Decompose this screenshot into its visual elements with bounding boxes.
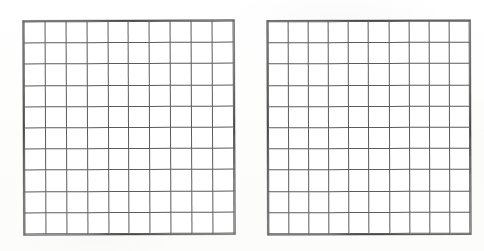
grid-cell[interactable] — [108, 64, 129, 85]
left-hundred-grid[interactable] — [23, 20, 236, 236]
grid-cell[interactable] — [25, 170, 46, 191]
grid-cell[interactable] — [212, 42, 233, 63]
grid-cell[interactable] — [349, 43, 369, 64]
grid-cell[interactable] — [268, 43, 288, 64]
grid-cell[interactable] — [429, 191, 449, 212]
grid-cell[interactable] — [429, 64, 449, 85]
grid-cell[interactable] — [45, 43, 66, 64]
grid-cell[interactable] — [429, 127, 449, 148]
grid-cell[interactable] — [309, 128, 329, 149]
grid-cell[interactable] — [108, 191, 129, 212]
grid-cell[interactable] — [213, 212, 234, 233]
grid-cell[interactable] — [429, 106, 449, 127]
grid-cell[interactable] — [87, 191, 108, 212]
grid-cell[interactable] — [45, 22, 66, 43]
grid-cell[interactable] — [87, 170, 108, 191]
grid-cell[interactable] — [369, 212, 389, 233]
grid-cell[interactable] — [309, 106, 329, 127]
grid-cell[interactable] — [349, 106, 369, 127]
grid-cell[interactable] — [24, 64, 45, 85]
grid-cell[interactable] — [449, 127, 469, 148]
grid-cell[interactable] — [329, 64, 349, 85]
grid-cell[interactable] — [66, 106, 87, 127]
grid-cell[interactable] — [308, 22, 328, 43]
grid-cell[interactable] — [24, 107, 45, 128]
grid-cell[interactable] — [429, 21, 449, 42]
grid-cell[interactable] — [87, 64, 108, 85]
grid-cell[interactable] — [449, 64, 469, 85]
grid-cell[interactable] — [409, 191, 429, 212]
grid-cell[interactable] — [66, 128, 87, 149]
grid-cell[interactable] — [45, 149, 66, 170]
grid-cell[interactable] — [389, 43, 409, 64]
grid-cell[interactable] — [449, 106, 469, 127]
grid-cell[interactable] — [213, 148, 234, 169]
grid-cell[interactable] — [45, 107, 66, 128]
grid-cell[interactable] — [129, 127, 150, 148]
grid-cell[interactable] — [66, 170, 87, 191]
grid-cell[interactable] — [212, 106, 233, 127]
grid-cell[interactable] — [429, 42, 449, 63]
grid-cell[interactable] — [289, 128, 309, 149]
grid-cell[interactable] — [329, 106, 349, 127]
grid-cell[interactable] — [87, 149, 108, 170]
grid-cell[interactable] — [45, 85, 66, 106]
grid-cell[interactable] — [269, 170, 289, 191]
grid-cell[interactable] — [67, 191, 88, 212]
grid-cell[interactable] — [329, 128, 349, 149]
grid-cell[interactable] — [328, 22, 348, 43]
grid-cell[interactable] — [450, 191, 470, 212]
grid-cell[interactable] — [191, 85, 212, 106]
grid-cell[interactable] — [45, 64, 66, 85]
grid-cell[interactable] — [67, 212, 88, 233]
grid-cell[interactable] — [213, 169, 234, 190]
grid-cell[interactable] — [389, 85, 409, 106]
grid-cell[interactable] — [25, 213, 46, 234]
grid-cell[interactable] — [212, 85, 233, 106]
grid-cell[interactable] — [369, 127, 389, 148]
grid-cell[interactable] — [66, 64, 87, 85]
grid-cell[interactable] — [129, 106, 150, 127]
grid-cell[interactable] — [449, 169, 469, 190]
grid-cell[interactable] — [66, 43, 87, 64]
grid-cell[interactable] — [329, 149, 349, 170]
grid-cell[interactable] — [150, 127, 171, 148]
grid-cell[interactable] — [269, 212, 289, 233]
grid-cell[interactable] — [87, 106, 108, 127]
grid-cell[interactable] — [129, 170, 150, 191]
grid-cell[interactable] — [150, 170, 171, 191]
grid-cell[interactable] — [171, 191, 192, 212]
grid-cell[interactable] — [192, 127, 213, 148]
grid-cell[interactable] — [288, 43, 308, 64]
grid-cell[interactable] — [369, 64, 389, 85]
grid-cell[interactable] — [409, 106, 429, 127]
grid-cell[interactable] — [449, 21, 469, 42]
grid-cell[interactable] — [88, 212, 109, 233]
grid-cell[interactable] — [149, 43, 170, 64]
grid-cell[interactable] — [46, 191, 67, 212]
grid-cell[interactable] — [108, 43, 129, 64]
grid-cell[interactable] — [150, 106, 171, 127]
grid-cell[interactable] — [409, 148, 429, 169]
grid-cell[interactable] — [24, 43, 45, 64]
grid-cell[interactable] — [429, 85, 449, 106]
grid-cell[interactable] — [191, 21, 212, 42]
grid-cell[interactable] — [349, 149, 369, 170]
grid-cell[interactable] — [25, 149, 46, 170]
grid-cell[interactable] — [129, 43, 150, 64]
grid-cell[interactable] — [389, 170, 409, 191]
grid-cell[interactable] — [349, 170, 369, 191]
grid-cell[interactable] — [389, 212, 409, 233]
grid-cell[interactable] — [108, 22, 129, 43]
grid-cell[interactable] — [25, 128, 46, 149]
grid-cell[interactable] — [108, 127, 129, 148]
grid-cell[interactable] — [150, 85, 171, 106]
grid-cell[interactable] — [213, 191, 234, 212]
grid-cell[interactable] — [389, 106, 409, 127]
grid-cell[interactable] — [329, 170, 349, 191]
grid-cell[interactable] — [87, 22, 108, 43]
grid-cell[interactable] — [369, 85, 389, 106]
grid-cell[interactable] — [349, 64, 369, 85]
grid-cell[interactable] — [288, 22, 308, 43]
grid-cell[interactable] — [150, 64, 171, 85]
